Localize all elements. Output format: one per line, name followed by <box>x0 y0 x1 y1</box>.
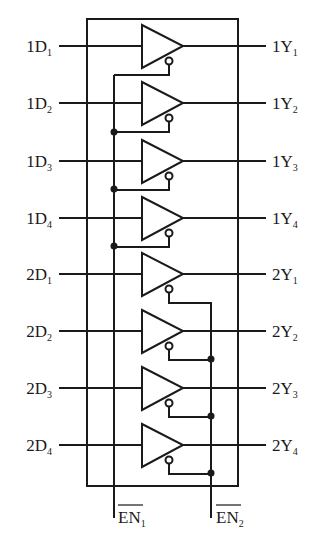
inversion-bubble-icon <box>166 115 173 122</box>
input-label: 1D4 <box>26 209 52 230</box>
chip-outline <box>87 19 238 486</box>
buffer-triangle-icon <box>142 82 183 125</box>
inversion-bubble-icon <box>166 230 173 237</box>
enable-wire <box>169 350 211 361</box>
input-label: 1D1 <box>26 37 52 58</box>
input-label: 1D3 <box>26 152 52 173</box>
buffer-triangle-icon <box>142 197 183 240</box>
output-label: 1Y3 <box>272 152 298 173</box>
buffer-triangle-icon <box>142 424 183 467</box>
output-label: 2Y1 <box>272 265 298 286</box>
buffer-triangle-icon <box>142 25 183 68</box>
buffer-triangle-icon <box>142 310 183 353</box>
enable-labels: EN1 EN2 <box>118 505 244 529</box>
inversion-bubble-icon <box>166 400 173 407</box>
inversion-bubble-icon <box>166 343 173 350</box>
output-label: 1Y2 <box>272 94 298 115</box>
enable-wire <box>169 464 211 475</box>
buffer-diagram: 1D1 1D2 1D3 1D4 2D1 2D2 2D3 2D4 1Y1 1Y2 … <box>0 0 317 545</box>
inversion-bubble-icon <box>166 173 173 180</box>
inversion-bubble-icon <box>166 286 173 293</box>
output-label: 1Y4 <box>272 209 298 230</box>
input-labels: 1D1 1D2 1D3 1D4 2D1 2D2 2D3 2D4 <box>26 37 52 457</box>
en1-label: EN1 <box>118 508 146 529</box>
input-label: 2D1 <box>26 265 52 286</box>
output-label: 2Y3 <box>272 379 298 400</box>
output-label: 2Y4 <box>272 436 298 457</box>
buffer-triangle-icon <box>142 140 183 183</box>
input-label: 2D4 <box>26 436 52 457</box>
input-label: 2D2 <box>26 322 52 343</box>
buffer-triangle-icon <box>142 367 183 410</box>
output-labels: 1Y1 1Y2 1Y3 1Y4 2Y1 2Y2 2Y3 2Y4 <box>272 37 298 457</box>
inversion-bubble-icon <box>166 457 173 464</box>
output-label: 1Y1 <box>272 37 298 58</box>
enable-wire <box>169 407 211 418</box>
output-label: 2Y2 <box>272 322 298 343</box>
enable-wire <box>169 293 211 304</box>
inversion-bubble-icon <box>166 58 173 65</box>
en2-label: EN2 <box>216 508 244 529</box>
input-label: 2D3 <box>26 379 52 400</box>
buffer-triangle-icon <box>142 253 183 296</box>
input-label: 1D2 <box>26 94 52 115</box>
